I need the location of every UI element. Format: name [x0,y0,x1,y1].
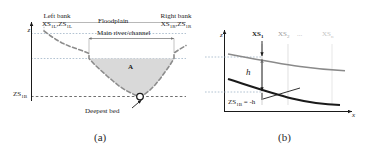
panel-b-caption: (b) [278,131,291,143]
left-bank-variables: XS1L,ZS1L [26,21,88,30]
deepest-bed-marker [137,93,144,100]
floodplain-label: Floodplain [98,18,128,25]
depth-label: h [246,68,251,77]
main-channel-label: Main river/channel [97,30,150,37]
xs-ellipsis-label: ... [297,31,302,38]
right-bank-variables: XS1R,ZS1R [143,21,209,30]
xs-last-label: XSn [322,31,333,40]
panel-b-x-axis-label: x [352,112,355,119]
bed-equation-callout [263,88,300,99]
area-label: A [128,64,133,71]
right-bank-title: Right bank [143,13,209,20]
panel-a-z-axis-label: z [28,27,31,34]
deepest-bed-label: Deepest bed [85,108,119,115]
datum-label: ZS1B [13,91,27,100]
deepest-bed-leader [132,100,142,108]
xs-first-label: XS1 [252,31,263,40]
xs-second-label: XS2 [278,31,289,40]
panel-a-caption: (a) [94,131,106,143]
panel-b-z-axis-label: z [220,32,223,39]
bed-equation-label: ZS1B = -h [228,99,255,108]
left-bank-title: Left bank [26,13,88,20]
panel-a-guides [31,34,186,59]
figure-container: Left bank XS1L,ZS1L Right bank XS1R,ZS1R… [0,0,369,163]
